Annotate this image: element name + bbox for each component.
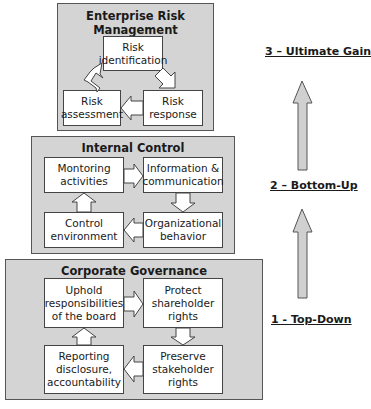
panel-title-corporate-governance: Corporate Governance — [6, 264, 262, 278]
stage-label-bottom-up: 2 – Bottom-Up — [270, 179, 358, 192]
stage-label-ultimate-gain: 3 – Ultimate Gain — [265, 45, 371, 58]
box-preserve-stakeholder-rights: Preserve stakeholder rights — [143, 345, 223, 394]
panel-title-internal-control: Internal Control — [32, 141, 234, 155]
box-monitoring-activities: Montoring activities — [44, 157, 124, 193]
box-control-environment: Control environment — [44, 212, 124, 248]
box-information-communication: Information & communication — [143, 157, 223, 193]
box-uphold-responsibilities: Uphold responsibilities of the board — [44, 278, 124, 328]
stage-arrow-upper-icon — [293, 81, 312, 170]
panel-title-erm-line2: Management — [58, 23, 213, 37]
box-risk-response: Risk response — [143, 90, 203, 126]
panel-title-erm-line1: Enterprise Risk — [58, 9, 213, 23]
stage-label-top-down: 1 - Top-Down — [271, 313, 352, 326]
box-risk-assessment: Risk assessment — [63, 90, 121, 126]
box-protect-shareholder-rights: Protect shareholder rights — [143, 278, 223, 328]
box-organizational-behavior: Organizational behavior — [143, 212, 223, 248]
box-reporting-disclosure: Reporting disclosure, accountability — [44, 345, 124, 394]
stage-arrow-lower-icon — [293, 209, 312, 298]
box-risk-identification: Risk identification — [103, 36, 163, 71]
